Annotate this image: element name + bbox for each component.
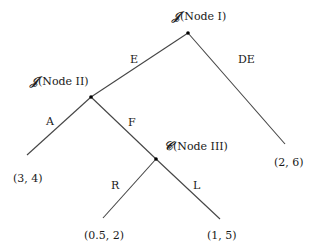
payoff-3-4: (3, 4) <box>13 172 43 185</box>
node-1-text: (Node I) <box>180 10 226 23</box>
payoff-1-5: (1, 5) <box>207 229 237 242</box>
edge-label-l: L <box>193 179 201 192</box>
payoff-0-5-2: (0.5, 2) <box>84 229 124 242</box>
node-2-dot <box>89 95 93 99</box>
edge-label-f: F <box>128 116 136 129</box>
edge-a <box>27 97 91 155</box>
node-1-dot <box>186 31 190 35</box>
node-1-label: 𝒥(Node I) <box>171 9 226 23</box>
payoff-2-6: (2, 6) <box>274 156 304 169</box>
edge-l <box>156 159 220 219</box>
node-3-dot <box>154 157 158 161</box>
node-3-label: 𝒞(Node III) <box>164 139 228 153</box>
node-2-text: (Node II) <box>38 75 89 88</box>
edge-de <box>188 33 285 144</box>
edge-label-r: R <box>111 179 120 192</box>
node-3-text: (Node III) <box>173 140 228 153</box>
edge-label-de: DE <box>238 53 255 66</box>
edge-f <box>91 97 156 159</box>
game-tree-diagram: 𝒥(Node I) 𝒥(Node II) 𝒞(Node III) E DE A … <box>0 0 310 252</box>
edge-label-e: E <box>130 53 138 66</box>
edge-e <box>91 33 188 97</box>
node-2-label: 𝒥(Node II) <box>29 74 89 88</box>
edge-label-a: A <box>45 115 55 128</box>
